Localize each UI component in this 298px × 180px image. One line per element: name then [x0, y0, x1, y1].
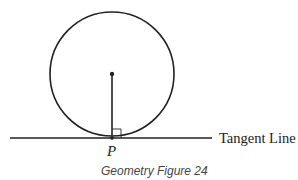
- tangent-diagram: P Tangent Line Geometry Figure 24: [0, 0, 298, 180]
- center-point: [110, 72, 114, 76]
- figure-caption: Geometry Figure 24: [101, 164, 208, 178]
- tangent-point-p: [110, 136, 114, 140]
- point-label-p: P: [106, 143, 116, 159]
- tangent-line-label: Tangent Line: [219, 130, 296, 146]
